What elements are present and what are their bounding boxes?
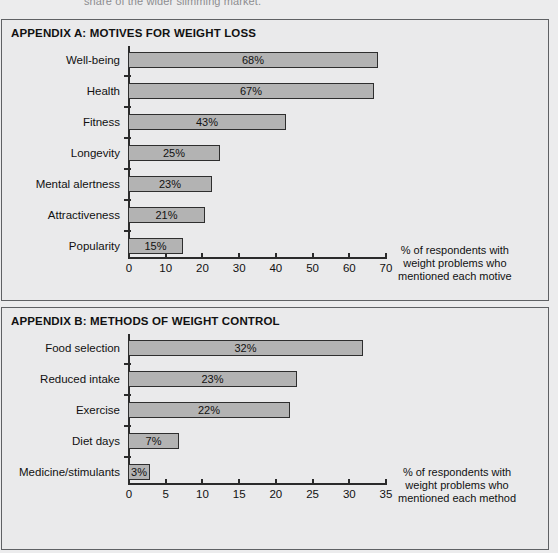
x-axis-tick — [238, 253, 240, 258]
category-label: Fitness — [0, 114, 120, 130]
x-axis-tick-label: 50 — [298, 262, 328, 274]
y-axis-tick — [124, 137, 131, 139]
y-axis-tick — [124, 363, 131, 365]
bar-row: 68%Well-being — [128, 52, 385, 68]
bar-row: 21%Attractiveness — [128, 207, 385, 223]
x-axis-tick — [128, 479, 130, 484]
x-axis-tick — [312, 479, 314, 484]
y-axis-tick — [124, 425, 131, 427]
appendix-b-panel: APPENDIX B: METHODS OF WEIGHT CONTROL 32… — [1, 307, 549, 550]
x-axis-tick-label: 35 — [371, 488, 401, 500]
x-axis-tick-label: 0 — [114, 262, 144, 274]
x-axis-tick — [348, 479, 350, 484]
x-axis-tick-label: 30 — [334, 488, 364, 500]
x-axis-tick-label: 25 — [298, 488, 328, 500]
category-label-wrap: Attractiveness — [0, 207, 120, 223]
category-label: Medicine/stimulants — [0, 464, 120, 480]
bar-row: 15%Popularity — [128, 238, 385, 254]
x-axis-tick-label: 10 — [151, 262, 181, 274]
x-axis-tick — [201, 479, 203, 484]
x-axis-tick-label: 40 — [261, 262, 291, 274]
x-axis-tick-label: 10 — [187, 488, 217, 500]
category-label: Well-being — [0, 52, 120, 68]
x-axis-tick-label: 20 — [187, 262, 217, 274]
bar-row: 23%Mental alertness — [128, 176, 385, 192]
x-axis-tick — [312, 253, 314, 258]
appendix-b-title: APPENDIX B: METHODS OF WEIGHT CONTROL — [11, 315, 280, 327]
x-axis-tick-label: 0 — [114, 488, 144, 500]
bar-value-label: 7% — [130, 433, 177, 449]
y-axis-tick — [124, 199, 131, 201]
appendix-a-title: APPENDIX A: MOTIVES FOR WEIGHT LOSS — [11, 27, 256, 39]
bar-value-label: 21% — [128, 207, 205, 223]
caption-line-1: % of respondents with — [398, 244, 512, 257]
bar-value-label: 43% — [128, 114, 286, 130]
category-label: Exercise — [0, 402, 120, 418]
caption-line-1: % of respondents with — [398, 466, 516, 479]
bar-value-label: 22% — [128, 402, 290, 418]
appendix-b-plot-area: 32%Food selection23%Reduced intake22%Exe… — [128, 334, 385, 486]
category-label: Attractiveness — [0, 207, 120, 223]
page-bleed-top-text: share of the wider slimming market. — [0, 0, 558, 14]
bar-row: 23%Reduced intake — [128, 371, 385, 387]
caption-line-3: mentioned each method — [398, 492, 516, 505]
y-axis-tick — [124, 230, 131, 232]
appendix-a-plot-area: 68%Well-being67%Health43%Fitness25%Longe… — [128, 46, 385, 264]
category-label-wrap: Exercise — [0, 402, 120, 418]
category-label-wrap: Diet days — [0, 433, 120, 449]
appendix-a-panel: APPENDIX A: MOTIVES FOR WEIGHT LOSS 68%W… — [1, 19, 549, 301]
y-axis-tick — [124, 394, 131, 396]
category-label-wrap: Medicine/stimulants — [0, 464, 120, 480]
x-axis-tick — [165, 479, 167, 484]
bar-value-label: 23% — [128, 371, 297, 387]
bar-value-label: 15% — [128, 238, 183, 254]
caption-line-2: weight problems who — [398, 257, 512, 270]
bar-row: 67%Health — [128, 83, 385, 99]
x-axis-tick — [238, 479, 240, 484]
caption-line-2: weight problems who — [398, 479, 516, 492]
x-axis-tick-label: 30 — [224, 262, 254, 274]
category-label-wrap: Reduced intake — [0, 371, 120, 387]
y-axis-tick — [124, 75, 131, 77]
x-axis-tick — [385, 479, 387, 484]
y-axis-tick — [124, 456, 131, 458]
category-label-wrap: Mental alertness — [0, 176, 120, 192]
x-axis-tick-label: 15 — [224, 488, 254, 500]
bleed-text-line: share of the wider slimming market. — [84, 0, 261, 7]
bar-row: 7%Diet days — [128, 433, 385, 449]
category-label-wrap: Popularity — [0, 238, 120, 254]
x-axis-tick — [128, 253, 130, 258]
category-label: Reduced intake — [0, 371, 120, 387]
x-axis-tick — [165, 253, 167, 258]
y-axis-tick — [124, 106, 131, 108]
category-label-wrap: Health — [0, 83, 120, 99]
x-axis-tick — [201, 253, 203, 258]
y-axis-tick — [124, 168, 131, 170]
x-axis-tick — [275, 253, 277, 258]
category-label-wrap: Food selection — [0, 340, 120, 356]
appendix-a-axis-caption: % of respondents with weight problems wh… — [398, 244, 512, 283]
category-label: Health — [0, 83, 120, 99]
bar-row: 3%Medicine/stimulants — [128, 464, 385, 480]
category-label: Diet days — [0, 433, 120, 449]
bar-value-label: 25% — [128, 145, 220, 161]
x-axis-tick — [348, 253, 350, 258]
bar-row: 22%Exercise — [128, 402, 385, 418]
category-label: Longevity — [0, 145, 120, 161]
bar-row: 25%Longevity — [128, 145, 385, 161]
bar-row: 32%Food selection — [128, 340, 385, 356]
category-label: Popularity — [0, 238, 120, 254]
category-label-wrap: Fitness — [0, 114, 120, 130]
category-label: Food selection — [0, 340, 120, 356]
bar-value-label: 3% — [130, 464, 148, 480]
x-axis-tick — [275, 479, 277, 484]
bar-value-label: 32% — [128, 340, 363, 356]
bar-value-label: 68% — [128, 52, 378, 68]
x-axis-tick — [385, 253, 387, 258]
category-label-wrap: Well-being — [0, 52, 120, 68]
x-axis-tick-label: 70 — [371, 262, 401, 274]
bar-value-label: 23% — [128, 176, 212, 192]
bar-row: 43%Fitness — [128, 114, 385, 130]
appendix-b-chart: 32%Food selection23%Reduced intake22%Exe… — [2, 334, 548, 546]
category-label: Mental alertness — [0, 176, 120, 192]
